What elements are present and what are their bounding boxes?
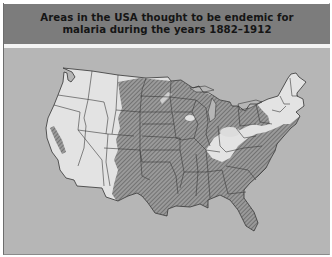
map-panel xyxy=(4,48,330,254)
figure-title: Areas in the USA thought to be endemic f… xyxy=(4,4,330,44)
title-line-2: malaria during the years 1882–1912 xyxy=(62,24,271,37)
title-line-1: Areas in the USA thought to be endemic f… xyxy=(40,12,293,25)
usa-malaria-map xyxy=(4,48,330,254)
